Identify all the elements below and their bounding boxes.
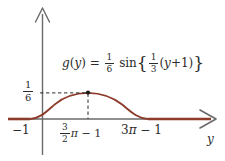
x-tick-label-minus-one: −1 bbox=[12, 124, 30, 136]
peak-tick-fraction: 32 bbox=[60, 123, 70, 144]
peak-tick-pi: π bbox=[71, 127, 78, 140]
peak-tick-denominator: 2 bbox=[60, 135, 70, 144]
right-tick-coefficient: 3 bbox=[121, 123, 129, 137]
x-tick-label-peak: 32π − 1 bbox=[59, 123, 101, 144]
maximum-point-dot bbox=[86, 91, 90, 95]
peak-tick-minus: − bbox=[81, 127, 90, 140]
equation-sin: sin bbox=[119, 56, 137, 70]
inner-numerator: 1 bbox=[149, 53, 159, 62]
amplitude-denominator: 6 bbox=[105, 65, 115, 74]
equation-brace-open: { bbox=[137, 53, 148, 73]
right-tick-pi: π bbox=[129, 123, 137, 137]
y-value-numerator: 1 bbox=[23, 80, 33, 90]
function-equation-label: g(y) = 16 sin{13(y+1)} bbox=[62, 53, 204, 74]
right-tick-one: 1 bbox=[154, 123, 162, 137]
equation-equals: = bbox=[90, 56, 100, 70]
inner-variable: y bbox=[164, 56, 171, 70]
peak-tick-one: 1 bbox=[94, 127, 101, 140]
equation-close-paren: ) bbox=[81, 56, 86, 70]
y-axis-value-label: 16 bbox=[22, 80, 34, 103]
y-value-denominator: 6 bbox=[23, 93, 33, 103]
inner-fraction: 13 bbox=[149, 53, 159, 74]
x-tick-label-right-zero: 3π − 1 bbox=[121, 124, 162, 136]
y-value-fraction: 16 bbox=[23, 80, 33, 103]
amplitude-fraction: 16 bbox=[105, 53, 115, 74]
figure-graph-of-function: g(y) = 16 sin{13(y+1)} 16 −1 32π − 1 3π … bbox=[0, 0, 225, 161]
amplitude-numerator: 1 bbox=[105, 53, 115, 62]
inner-plus: + bbox=[171, 56, 181, 70]
equation-function-name: g bbox=[62, 56, 70, 70]
sine-hump-curve bbox=[30, 93, 148, 119]
equation-brace-close: } bbox=[193, 53, 204, 73]
peak-tick-numerator: 3 bbox=[60, 123, 70, 132]
x-axis-name-label: y bbox=[207, 133, 214, 145]
inner-constant: 1 bbox=[181, 56, 189, 70]
inner-denominator: 3 bbox=[149, 65, 159, 74]
right-tick-minus: − bbox=[140, 123, 150, 137]
